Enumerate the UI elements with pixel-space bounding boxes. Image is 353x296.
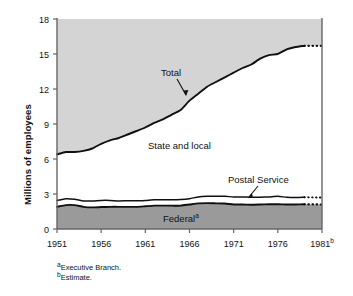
footnotes: aExecutive Branch. bEstimate. (57, 263, 121, 282)
footnote-a: aExecutive Branch. (57, 263, 121, 272)
footnote-a-text: Executive Branch. (61, 263, 121, 272)
series-label-federal-text: Federal (163, 213, 195, 224)
postal-callout-leader (248, 186, 258, 198)
series-label-federal: Federala (163, 214, 199, 224)
chart-figure: Millions of employees 18 15 12 9 6 3 0 1… (0, 0, 353, 296)
series-label-state-and-local: State and local (148, 141, 211, 151)
footnote-b: bEstimate. (57, 273, 121, 282)
series-label-federal-marker: a (195, 212, 199, 219)
series-label-postal-service: Postal Service (228, 175, 289, 185)
series-label-total: Total (161, 68, 181, 78)
total-area-fill (57, 19, 322, 154)
footnote-b-text: Estimate. (61, 273, 92, 282)
postal-service-line (57, 196, 304, 201)
